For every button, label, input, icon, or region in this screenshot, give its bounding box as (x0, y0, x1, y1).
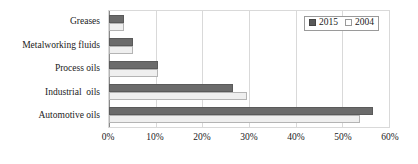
category-label-metalworking-fluids: Metalworking fluids (22, 41, 104, 51)
bar-group (109, 84, 389, 101)
bar-2015[interactable] (109, 84, 233, 92)
x-axis-tick-50: 50% (334, 132, 351, 142)
x-axis-tick-40: 40% (287, 132, 304, 142)
legend-label-2015: 2015 (319, 18, 338, 28)
legend-label-2004: 2004 (355, 18, 374, 28)
x-axis-tick-0: 0% (102, 132, 115, 142)
legend-item-2004[interactable]: 2004 (345, 18, 374, 28)
category-label-automotive-oils: Automotive oils (39, 111, 105, 121)
bar-2004[interactable] (109, 92, 247, 100)
bar-2015[interactable] (109, 38, 133, 46)
y-axis-category-labels: Greases Metalworking fluids Process oils… (0, 10, 104, 128)
category-label-industrial-oils: Industrial oils (45, 88, 104, 98)
bar-2004[interactable] (109, 46, 133, 54)
bar-2015[interactable] (109, 107, 373, 115)
category-label-greases: Greases (70, 17, 104, 27)
gridline (389, 11, 390, 127)
legend-item-2015[interactable]: 2015 (309, 18, 338, 28)
chart-legend: 2015 2004 (304, 16, 379, 31)
x-axis-tick-10: 10% (146, 132, 163, 142)
bar-group (109, 107, 389, 124)
x-axis-tick-60: 60% (381, 132, 398, 142)
bar-group (109, 37, 389, 54)
x-axis-tick-20: 20% (193, 132, 210, 142)
bar-group (109, 60, 389, 77)
bar-2004[interactable] (109, 69, 158, 77)
outlined-light-square-icon (345, 19, 352, 26)
x-axis-tick-30: 30% (240, 132, 257, 142)
bar-2015[interactable] (109, 61, 158, 69)
bar-chart: Greases Metalworking fluids Process oils… (0, 0, 418, 164)
category-label-process-oils: Process oils (55, 64, 104, 74)
bar-2004[interactable] (109, 115, 360, 123)
x-axis-tick-labels: 0%10%20%30%40%50%60% (108, 130, 390, 148)
filled-dark-square-icon (309, 19, 316, 26)
bar-2015[interactable] (109, 15, 124, 23)
bar-2004[interactable] (109, 23, 124, 31)
